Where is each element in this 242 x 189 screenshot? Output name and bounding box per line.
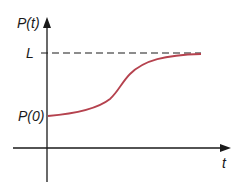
x-axis-arrow-icon xyxy=(220,144,231,152)
initial-value-label: P(0) xyxy=(18,109,44,123)
limit-label: L xyxy=(26,46,34,60)
y-axis-arrow-icon xyxy=(43,17,51,28)
y-axis-label: P(t) xyxy=(17,16,40,30)
logistic-growth-diagram: P(t) L P(0) t xyxy=(0,0,242,189)
logistic-curve xyxy=(48,54,201,116)
x-axis-label: t xyxy=(222,156,226,170)
